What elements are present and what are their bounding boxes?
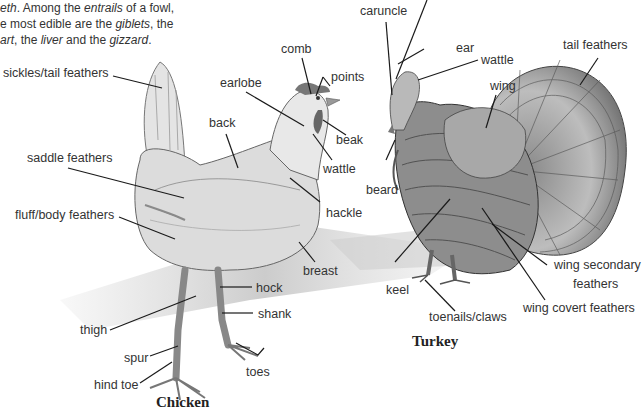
label-chicken-sickles: sickles/tail feathers	[3, 66, 109, 80]
label-chicken-fluff: fluff/body feathers	[15, 208, 114, 222]
label-chicken-hackle: hackle	[326, 206, 362, 220]
diagram-illustration	[0, 0, 644, 412]
label-turkey-tail-feathers: tail feathers	[563, 38, 628, 52]
label-chicken-back: back	[209, 116, 235, 130]
label-chicken-hind-toe: hind toe	[94, 378, 138, 392]
label-chicken-hock: hock	[256, 281, 282, 295]
label-turkey-ear: ear	[456, 41, 474, 55]
label-turkey-toenails: toenails/claws	[429, 310, 507, 324]
label-chicken-thigh: thigh	[80, 323, 107, 337]
label-chicken-spur: spur	[124, 351, 148, 365]
turkey-title: Turkey	[412, 333, 458, 350]
label-chicken-toes: toes	[246, 365, 270, 379]
label-chicken-comb: comb	[281, 42, 312, 56]
label-turkey-wattle: wattle	[481, 53, 514, 67]
chicken-illustration	[135, 62, 340, 400]
label-chicken-points: points	[331, 70, 364, 84]
label-chicken-beak: beak	[336, 133, 363, 147]
label-chicken-saddle: saddle feathers	[27, 151, 112, 165]
label-turkey-wing-secondary-2: feathers	[573, 277, 618, 291]
label-turkey-beard: beard	[366, 183, 398, 197]
label-turkey-wing-secondary: wing secondary	[554, 258, 641, 272]
label-chicken-earlobe: earlobe	[220, 76, 262, 90]
label-turkey-caruncle: caruncle	[360, 4, 407, 18]
label-turkey-keel: keel	[386, 283, 409, 297]
label-chicken-wattle: wattle	[323, 162, 356, 176]
label-turkey-wing-covert: wing covert feathers	[523, 301, 635, 315]
chicken-title: Chicken	[156, 394, 209, 411]
label-chicken-breast: breast	[303, 264, 338, 278]
label-turkey-wing: wing	[490, 79, 516, 93]
label-chicken-shank: shank	[258, 307, 291, 321]
